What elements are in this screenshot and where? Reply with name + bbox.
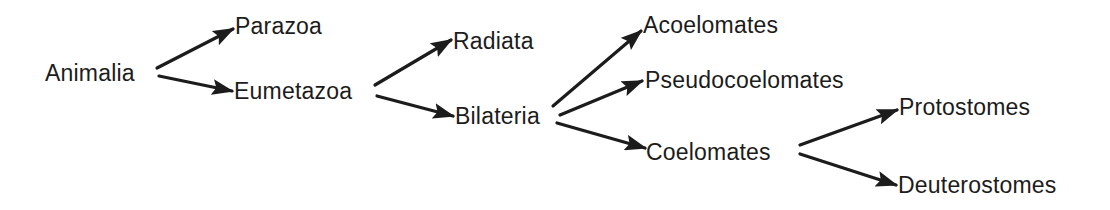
arrow-icon-bilateria-to-acoelomates — [553, 31, 641, 106]
arrow-icon-coelomates-to-protostomes — [800, 110, 897, 145]
node-radiata: Radiata — [453, 28, 534, 54]
arrow-icon-coelomates-to-deuterostomes — [800, 154, 896, 185]
node-parazoa: Parazoa — [235, 13, 322, 39]
node-eumetazoa: Eumetazoa — [234, 78, 352, 104]
node-animalia: Animalia — [45, 60, 135, 86]
node-acoelomates: Acoelomates — [643, 12, 778, 38]
arrow-icon-bilateria-to-pseudocoelomates — [560, 81, 642, 115]
arrow-icon-animalia-to-eumetazoa — [159, 76, 232, 91]
taxonomy-tree-diagram: AnimaliaParazoaEumetazoaRadiataBilateria… — [0, 0, 1110, 210]
arrow-icon-animalia-to-parazoa — [157, 29, 233, 68]
node-coelomates: Coelomates — [646, 139, 771, 165]
node-bilateria: Bilateria — [455, 103, 540, 129]
node-pseudocoelomates: Pseudocoelomates — [645, 67, 844, 93]
node-deuterostomes: Deuterostomes — [898, 172, 1057, 198]
node-protostomes: Protostomes — [899, 94, 1030, 120]
arrow-icon-bilateria-to-coelomates — [557, 123, 645, 148]
arrow-icon-eumetazoa-to-radiata — [375, 40, 451, 85]
arrow-icon-eumetazoa-to-bilateria — [377, 96, 453, 116]
